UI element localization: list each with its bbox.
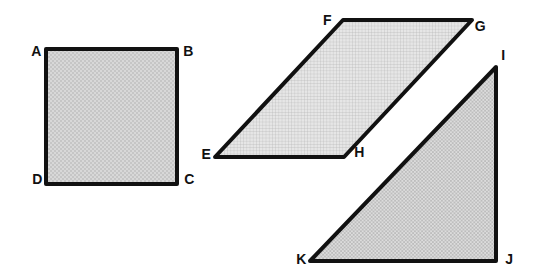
square-shape: A B C D	[31, 43, 194, 187]
vertex-label-h: H	[354, 144, 364, 160]
vertex-label-i: I	[501, 47, 504, 63]
geometry-figure-canvas: A B C D E F G H I J K	[0, 0, 536, 279]
vertex-label-c: C	[184, 171, 194, 187]
vertex-label-k: K	[296, 251, 306, 267]
geometry-figure: A B C D E F G H I J K	[0, 0, 536, 279]
vertex-label-e: E	[202, 146, 211, 162]
vertex-label-d: D	[32, 171, 42, 187]
square-polygon	[46, 49, 177, 184]
vertex-label-a: A	[31, 43, 41, 59]
vertex-label-b: B	[183, 43, 193, 59]
vertex-label-j: J	[505, 251, 512, 267]
vertex-label-f: F	[323, 12, 332, 28]
vertex-label-g: G	[475, 18, 486, 34]
